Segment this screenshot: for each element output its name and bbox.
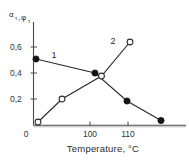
series-2-point — [59, 96, 65, 102]
series-1-annotation: 1 — [51, 50, 56, 60]
series-1 — [33, 56, 164, 124]
series-2 — [35, 39, 133, 125]
series-1-line — [36, 59, 161, 121]
series-1-point — [92, 70, 98, 76]
series-1-point — [33, 56, 39, 62]
y-axis-label-symbol-2: φ — [21, 13, 26, 22]
x-tick-label-0: 0 — [24, 129, 29, 139]
y-tick-label-0_4: 0,4 — [10, 68, 22, 78]
line-chart: α τ , φ τ 0,6 0,4 0,2 0 100 110 Tempe — [0, 0, 189, 164]
y-tick-label-0_6: 0,6 — [10, 42, 22, 52]
series-2-point — [35, 119, 41, 125]
x-axis-title: Temperature, °C — [67, 143, 139, 154]
x-tick-label-100: 100 — [83, 129, 97, 139]
chart-screenshot: α τ , φ τ 0,6 0,4 0,2 0 100 110 Tempe — [0, 0, 189, 164]
series-2-point — [99, 73, 105, 79]
series-1-point — [158, 117, 164, 123]
x-tick-label-110: 110 — [121, 129, 135, 139]
series-2-point — [127, 39, 133, 45]
y-axis-label-symbol-1: α — [9, 10, 14, 19]
y-axis-label-separator: , — [18, 13, 20, 22]
y-tick-label-0_2: 0,2 — [10, 94, 22, 104]
y-axis-label-subscript-2: τ — [28, 18, 31, 24]
series-2-annotation: 2 — [110, 36, 115, 46]
series-1-point — [124, 98, 130, 104]
y-axis-label: α τ , φ τ — [9, 10, 31, 24]
